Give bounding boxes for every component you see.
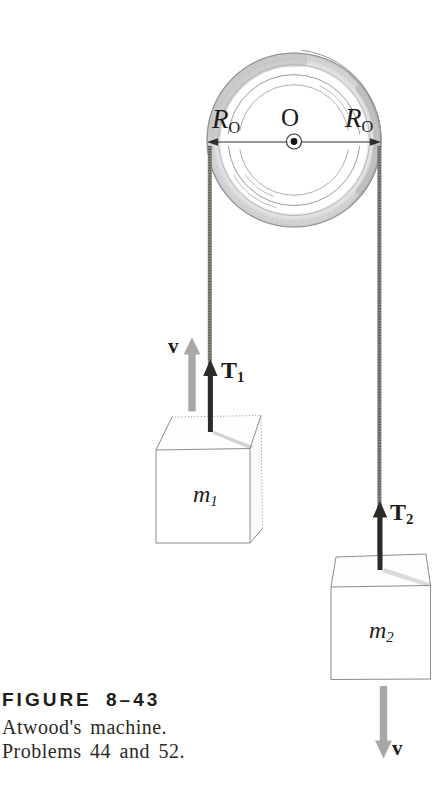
- tension-2-label-sub: 2: [406, 511, 413, 527]
- tension-1-label: T1: [221, 358, 244, 385]
- tension-1-label-main: T: [221, 357, 237, 383]
- velocity-down-arrowhead: [375, 741, 392, 759]
- tension-2-label-main: T: [390, 499, 406, 525]
- tension-1-arrowhead: [203, 360, 217, 377]
- velocity-up-arrow: [184, 338, 201, 412]
- mass-2-label-main: m: [369, 617, 386, 643]
- tension-1-label-sub: 1: [237, 369, 244, 385]
- mass-1-box: [156, 416, 263, 544]
- radius-label-left-main: R: [212, 104, 229, 134]
- axis-label: O: [281, 105, 299, 130]
- figure-caption: FIGURE 8–43 Atwood's machine. Problems 4…: [2, 689, 185, 763]
- caption-line-1: Atwood's machine.: [2, 716, 185, 739]
- tension-2-arrowhead: [373, 501, 387, 518]
- radius-label-right-main: R: [345, 103, 362, 133]
- radius-label-left: RO: [212, 106, 240, 136]
- radius-label-right: RO: [345, 105, 373, 135]
- caption-line-2: Problems 44 and 52.: [2, 740, 185, 763]
- tension-2-label: T2: [390, 500, 413, 527]
- axle-dot: [291, 138, 298, 145]
- radius-label-right-sub: O: [362, 118, 374, 136]
- mass-2-label-sub: 2: [386, 629, 393, 645]
- figure-8-43: RO O RO v T1 m1 T2 m2 v FIGURE 8–43 Atwo…: [0, 0, 444, 794]
- velocity-label-left: v: [168, 336, 179, 357]
- mass-2-label: m2: [369, 618, 394, 645]
- velocity-up-arrowhead: [184, 338, 201, 355]
- radius-label-left-sub: O: [229, 119, 241, 137]
- pulley: [207, 50, 381, 227]
- mass-1-label-main: m: [193, 481, 210, 507]
- velocity-label-bottom: v: [392, 738, 403, 759]
- mass-1-label: m1: [193, 482, 218, 509]
- figure-number: FIGURE 8–43: [2, 689, 185, 711]
- mass-1-label-sub: 1: [210, 493, 217, 509]
- pulley-axle: [287, 134, 302, 149]
- velocity-down-arrow: [375, 686, 392, 759]
